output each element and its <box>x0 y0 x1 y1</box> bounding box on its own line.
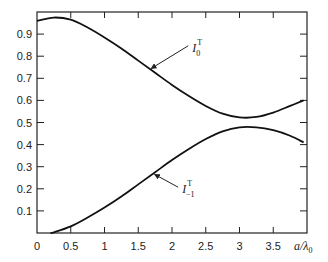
y-tick-label: 0.4 <box>17 139 32 151</box>
x-tick-label: 1 <box>101 240 107 252</box>
series-lines <box>37 17 304 233</box>
annotation-arrow <box>155 174 178 187</box>
annotation-arrow <box>151 46 188 69</box>
x-axis-label: a/λ0 <box>294 239 313 255</box>
x-tick-label: 3 <box>236 240 242 252</box>
series-line-i0 <box>37 17 304 117</box>
y-tick-label: 0.8 <box>17 50 32 62</box>
x-tick-label: 2.5 <box>198 240 213 252</box>
y-tick-label: 0.1 <box>17 205 32 217</box>
y-axis: 0.10.20.30.40.50.60.70.80.9 <box>17 28 307 217</box>
annotations: IT0IT−1 <box>151 38 202 199</box>
x-tick-label: 3.5 <box>266 240 281 252</box>
x-tick-label: 0.5 <box>63 240 78 252</box>
y-tick-label: 0.5 <box>17 117 32 129</box>
annotation-label-i-minus1: IT−1 <box>181 179 194 199</box>
series-line-i-minus1 <box>51 127 304 233</box>
x-tick-label: 1.5 <box>131 240 146 252</box>
y-tick-label: 0.9 <box>17 28 32 40</box>
y-tick-label: 0.7 <box>17 72 32 84</box>
line-chart: 00.511.522.533.5 0.10.20.30.40.50.60.70.… <box>0 0 328 262</box>
y-tick-label: 0.2 <box>17 183 32 195</box>
x-tick-label: 0 <box>34 240 40 252</box>
plot-frame <box>37 12 307 233</box>
y-tick-label: 0.3 <box>17 161 32 173</box>
y-tick-label: 0.6 <box>17 94 32 106</box>
annotation-label-i0: IT0 <box>191 38 202 58</box>
x-axis: 00.511.522.533.5 <box>34 12 281 252</box>
x-tick-label: 2 <box>169 240 175 252</box>
